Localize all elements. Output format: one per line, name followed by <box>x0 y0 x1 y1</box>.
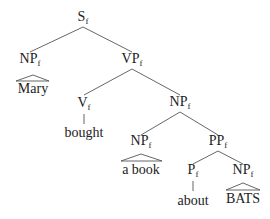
node-label: NP <box>233 162 251 177</box>
feature-subscript: f <box>85 16 88 26</box>
feature-subscript: f <box>187 101 190 111</box>
node-label: NP <box>20 51 38 66</box>
leaf-a-book: a book <box>122 163 160 177</box>
tree-edges <box>0 0 270 219</box>
feature-subscript: f <box>88 102 91 112</box>
node-s: Sf <box>78 10 89 28</box>
node-label: NP <box>131 133 149 148</box>
leaf-about: about <box>177 194 208 208</box>
feature-subscript: f <box>37 58 40 68</box>
leaf-bought: bought <box>65 126 104 140</box>
leaf-bats: BATS <box>226 192 260 206</box>
feature-subscript: f <box>224 140 227 150</box>
node-np-object: NPf <box>170 95 191 113</box>
node-v: Vf <box>77 96 90 114</box>
node-label: VP <box>122 51 140 66</box>
leaf-mary: Mary <box>18 82 48 96</box>
node-label: V <box>77 95 87 110</box>
feature-subscript: f <box>250 169 253 179</box>
feature-subscript: f <box>195 169 198 179</box>
feature-subscript: f <box>139 58 142 68</box>
node-np-book: NPf <box>131 134 152 152</box>
node-vp: VPf <box>122 52 143 70</box>
node-np-subject: NPf <box>20 52 41 70</box>
node-label: P <box>188 162 196 177</box>
node-np-bats: NPf <box>233 163 254 181</box>
node-pp: PPf <box>209 134 228 152</box>
node-label: PP <box>209 133 225 148</box>
node-p: Pf <box>188 163 199 181</box>
feature-subscript: f <box>148 140 151 150</box>
node-label: S <box>78 9 86 24</box>
node-label: NP <box>170 94 188 109</box>
